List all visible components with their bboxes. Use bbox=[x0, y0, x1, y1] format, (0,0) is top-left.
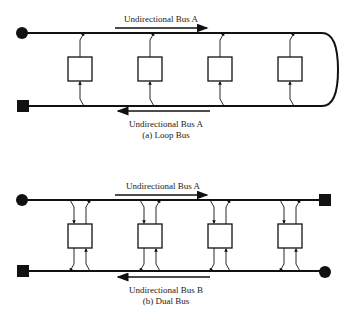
tap-from-bottom-bus bbox=[150, 82, 154, 106]
tap-from-bottom-bus bbox=[80, 82, 84, 106]
tap-from-top-bus bbox=[290, 33, 294, 57]
dual-station bbox=[138, 200, 162, 271]
station-box bbox=[68, 224, 92, 248]
dual-top-label: Undirectional Bus A bbox=[126, 181, 200, 191]
loop-station bbox=[68, 33, 92, 106]
read-tap-bus-b bbox=[226, 249, 230, 271]
station-box bbox=[278, 57, 302, 81]
tap-from-bottom-bus bbox=[220, 82, 224, 106]
dual-caption: (b) Dual Bus bbox=[143, 296, 190, 306]
station-box bbox=[208, 224, 232, 248]
write-tap-bus-a bbox=[156, 200, 160, 224]
dual-bus-a-end-square bbox=[319, 194, 331, 206]
read-tap-bus-b bbox=[296, 249, 300, 271]
write-tap-bus-a bbox=[296, 200, 300, 224]
write-tap-bus-b bbox=[280, 248, 284, 271]
station-box bbox=[208, 57, 232, 81]
tap-from-top-bus bbox=[220, 33, 224, 57]
tap-from-top-bus bbox=[150, 33, 154, 57]
loop-station bbox=[278, 33, 302, 106]
loop-station bbox=[208, 33, 232, 106]
tap-from-top-bus bbox=[80, 33, 84, 57]
tap-from-bottom-bus bbox=[290, 82, 294, 106]
station-box bbox=[138, 224, 162, 248]
loop-top-label: Undirectional Bus A bbox=[124, 14, 198, 24]
station-box bbox=[68, 57, 92, 81]
read-tap-bus-b bbox=[86, 249, 90, 271]
write-tap-bus-a bbox=[86, 200, 90, 224]
write-tap-bus-b bbox=[70, 248, 74, 271]
dual-station bbox=[68, 200, 92, 271]
read-tap-bus-b bbox=[156, 249, 160, 271]
read-tap-bus-a bbox=[140, 200, 144, 223]
write-tap-bus-b bbox=[140, 248, 144, 271]
loop-caption: (a) Loop Bus bbox=[142, 130, 190, 140]
station-box bbox=[138, 57, 162, 81]
write-tap-bus-a bbox=[226, 200, 230, 224]
dual-station bbox=[208, 200, 232, 271]
loop-station bbox=[138, 33, 162, 106]
loop-bottom-label: Undirectional Bus A bbox=[129, 119, 203, 129]
bus-diagrams: Undirectional Bus A Undirectional Bus A … bbox=[0, 0, 350, 316]
read-tap-bus-a bbox=[70, 200, 74, 223]
dual-bus-diagram: Undirectional Bus A Undirectional Bus B … bbox=[16, 181, 331, 306]
dual-station bbox=[278, 200, 302, 271]
write-tap-bus-b bbox=[210, 248, 214, 271]
station-box bbox=[278, 224, 302, 248]
loop-bus-diagram: Undirectional Bus A Undirectional Bus A … bbox=[16, 14, 338, 140]
dual-bottom-label: Undirectional Bus B bbox=[129, 285, 203, 295]
read-tap-bus-a bbox=[280, 200, 284, 223]
read-tap-bus-a bbox=[210, 200, 214, 223]
loop-bus-end-square bbox=[17, 100, 29, 112]
dual-bus-b-start-circle bbox=[319, 266, 331, 278]
